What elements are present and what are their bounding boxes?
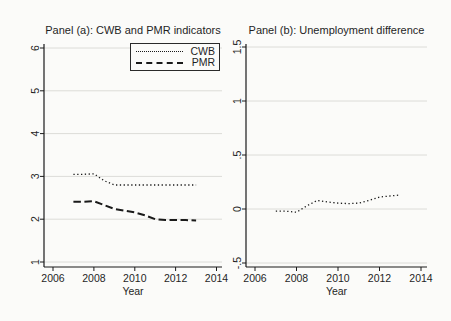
x-tick-label: 2006 <box>243 272 267 284</box>
two-panel-line-chart: 12345620062008201020122014-.50.511.52006… <box>0 0 451 321</box>
y-tick-label: .5 <box>231 150 243 159</box>
y-tick-label: 6 <box>29 45 41 51</box>
dashed-line-sample <box>136 62 183 64</box>
panel-a-plot: 12345620062008201020122014 <box>29 44 228 284</box>
x-tick-label: 2014 <box>409 272 433 284</box>
dotted-line-sample <box>136 51 183 52</box>
y-tick-label: 0 <box>231 206 243 212</box>
panel-a-title: Panel (a): CWB and PMR indicators <box>44 23 222 37</box>
y-tick-label: 4 <box>29 131 41 137</box>
x-tick-label: 2012 <box>368 272 392 284</box>
y-tick-label: 2 <box>29 216 41 222</box>
panel-b-title: Panel (b): Unemployment difference <box>246 23 427 37</box>
panel-a-x-axis-title: Year <box>44 285 222 298</box>
y-tick-label: 1 <box>231 98 243 104</box>
series-unemployment-difference <box>276 195 401 212</box>
panel-b-plot: -.50.511.520062008201020122014 <box>231 40 433 284</box>
y-tick-label: 3 <box>29 173 41 179</box>
x-tick-label: 2008 <box>82 272 106 284</box>
legend-label-pmr: PMR <box>190 57 215 68</box>
y-tick-label: 1.5 <box>231 40 243 55</box>
y-tick-label: 1 <box>29 259 41 265</box>
legend: CWB PMR <box>130 43 220 71</box>
legend-item-pmr: PMR <box>136 57 215 68</box>
series-pmr <box>73 201 196 220</box>
x-tick-label: 2010 <box>326 272 350 284</box>
x-tick-label: 2012 <box>164 272 188 284</box>
panel-b-x-axis-title: Year <box>246 285 427 298</box>
series-cwb <box>73 174 196 185</box>
x-tick-label: 2006 <box>41 272 65 284</box>
y-tick-label: -.5 <box>231 257 243 269</box>
chart-canvas: 12345620062008201020122014-.50.511.52006… <box>0 0 451 321</box>
x-tick-label: 2014 <box>205 272 229 284</box>
x-tick-label: 2010 <box>123 272 147 284</box>
y-tick-label: 5 <box>29 88 41 94</box>
x-tick-label: 2008 <box>285 272 309 284</box>
